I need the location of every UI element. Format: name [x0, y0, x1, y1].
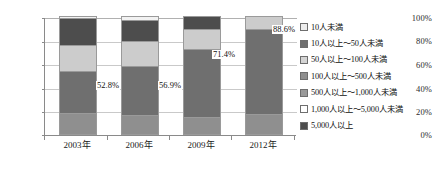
legend-label: 500人以上～1,000人未満 — [311, 88, 397, 97]
bar-segment — [184, 30, 220, 50]
legend-item-1[interactable]: 10人以上～50人未満 — [300, 35, 433, 51]
y-tick-mark — [42, 89, 45, 90]
bar-segment — [184, 118, 220, 134]
legend-item-0[interactable]: 10人未満 — [300, 19, 433, 35]
bar-2009[interactable] — [183, 16, 221, 135]
bar-segment — [122, 21, 158, 42]
bar-segment — [60, 114, 96, 134]
legend: 10人未満 10人以上～50人未満 50人以上～100人未満 100人以上～50… — [300, 19, 433, 134]
x-axis-label-2012: 2012年 — [228, 140, 298, 150]
x-axis-label-2009: 2009年 — [166, 140, 236, 150]
data-label-2006: 56.9% — [158, 81, 182, 90]
legend-item-6[interactable]: 5,000人以上 — [300, 117, 433, 133]
bar-segment — [122, 116, 158, 134]
legend-swatch-icon — [300, 89, 308, 97]
legend-item-3[interactable]: 100人以上～500人未満 — [300, 68, 433, 84]
legend-swatch-icon — [300, 40, 308, 48]
legend-item-4[interactable]: 500人以上～1,000人未満 — [300, 85, 433, 101]
legend-item-2[interactable]: 50人以上～100人未満 — [300, 52, 433, 68]
stacked-bar-chart: 100% 80% 60% 40% 20% 0% 2003年 2006年 2009… — [0, 0, 435, 180]
legend-label: 5,000人以上 — [311, 121, 353, 130]
y-tick-mark — [42, 65, 45, 66]
x-axis-label-2006: 2006年 — [104, 140, 174, 150]
data-label-2012: 88.6% — [272, 25, 296, 34]
legend-swatch-icon — [300, 122, 308, 130]
y-tick-mark — [42, 42, 45, 43]
legend-swatch-icon — [300, 105, 308, 113]
data-label-2009: 71.4% — [212, 50, 236, 59]
bar-segment — [60, 19, 96, 46]
legend-swatch-icon — [300, 56, 308, 64]
legend-label: 100人以上～500人未満 — [311, 72, 391, 81]
legend-item-5[interactable]: 1,000人以上～5,000人未満 — [300, 101, 433, 117]
legend-swatch-icon — [300, 23, 308, 31]
bar-segment — [246, 115, 282, 134]
legend-label: 1,000人以上～5,000人未満 — [311, 105, 403, 114]
y-tick-mark — [42, 112, 45, 113]
bar-segment — [184, 50, 220, 118]
plot-area — [44, 18, 296, 136]
y-tick-mark — [42, 18, 45, 19]
bar-segment — [184, 17, 220, 30]
legend-label: 10人以上～50人未満 — [311, 39, 383, 48]
legend-label: 10人未満 — [311, 23, 343, 32]
x-axis-label-2003: 2003年 — [42, 140, 112, 150]
bar-segment — [122, 42, 158, 68]
bar-segment — [60, 46, 96, 72]
bar-2006[interactable] — [121, 16, 159, 135]
data-label-2003: 52.8% — [96, 81, 120, 90]
bar-segment — [60, 72, 96, 114]
bar-segment — [246, 30, 282, 115]
legend-swatch-icon — [300, 72, 308, 80]
bar-segment — [122, 67, 158, 115]
bar-2003[interactable] — [59, 16, 97, 135]
legend-label: 50人以上～100人未満 — [311, 55, 387, 64]
